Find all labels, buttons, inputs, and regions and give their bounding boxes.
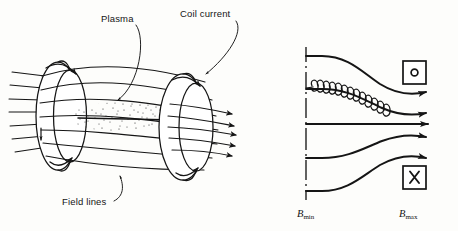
coil-current-label: Coil current <box>180 8 231 19</box>
b-max-label: Bmax <box>399 208 418 221</box>
field-lines-leader <box>114 176 122 201</box>
field-line-4 <box>306 135 426 158</box>
field-lines-label: Field lines <box>62 196 107 207</box>
left-panel-group: Plasma Coil current Field lines <box>9 8 238 207</box>
coil-current-label-group: Coil current <box>180 8 238 74</box>
helical-particle-orbit <box>306 80 390 116</box>
plasma-label: Plasma <box>101 13 134 24</box>
b-max-label-group: Bmax <box>399 208 418 221</box>
right-coil <box>159 73 213 180</box>
figure-canvas: Plasma Coil current Field lines <box>0 0 458 231</box>
coil-current-leader <box>206 21 238 74</box>
field-into-page-symbol <box>403 166 426 189</box>
b-max-sub: max <box>405 213 418 221</box>
plasma-leader <box>118 25 141 100</box>
b-min-label: Bmin <box>297 208 315 221</box>
field-out-of-page-symbol <box>403 61 426 84</box>
magnetic-mirror-figure: Plasma Coil current Field lines <box>0 0 458 231</box>
plasma-label-group: Plasma <box>101 13 141 100</box>
b-min-sub: min <box>303 213 314 221</box>
b-min-label-group: Bmin <box>297 208 315 221</box>
field-lines-label-group: Field lines <box>62 176 122 207</box>
right-panel-group: Bmin Bmax <box>297 47 428 221</box>
